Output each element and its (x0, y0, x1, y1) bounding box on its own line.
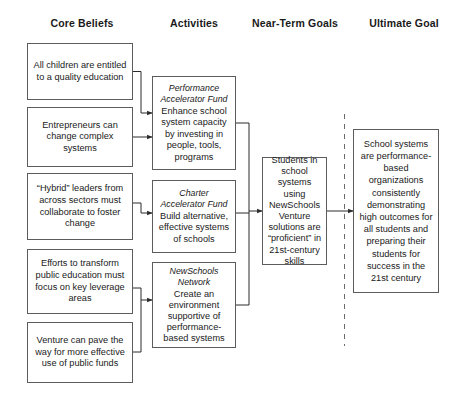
connectors-activities-to-goals (236, 123, 262, 305)
near-term-goal-node-1-text: Students in school systems using NewScho… (267, 155, 322, 267)
activity-node-3-title: NewSchools Network (157, 266, 231, 288)
activity-node-1: Performance Accelerator Fund Enhance sch… (152, 76, 236, 170)
core-belief-node-2: Entrepreneurs can change complex systems (27, 107, 133, 167)
column-header-near-term-goals: Near-Term Goals (243, 17, 347, 29)
connector-belief-5-to-activity-3 (133, 300, 141, 352)
core-belief-node-3: “Hybrid” leaders from across sectors mus… (27, 173, 133, 240)
activity-node-1-title: Performance Accelerator Fund (157, 83, 231, 105)
column-header-activities: Activities (150, 17, 238, 29)
connector-activity-1-to-bus (236, 123, 249, 211)
activity-node-2-title: Charter Accelerator Fund (157, 188, 231, 210)
activity-node-3-text: Create an environment supportive of perf… (157, 289, 231, 345)
core-belief-node-1-text: All children are entitled to a quality e… (32, 60, 128, 83)
connector-activity-3-to-bus (236, 211, 249, 305)
core-belief-node-5-text: Venture can pave the way for more effect… (32, 335, 128, 370)
core-belief-node-1: All children are entitled to a quality e… (27, 43, 133, 100)
core-belief-node-4-text: Efforts to transform public education mu… (32, 258, 128, 304)
ultimate-goal-node-1: School systems are performance-based org… (353, 129, 439, 293)
column-header-ultimate-goal: Ultimate Goal (355, 17, 453, 29)
column-header-core-beliefs: Core Beliefs (23, 17, 141, 29)
core-belief-node-4: Efforts to transform public education mu… (27, 249, 133, 314)
theory-of-change-diagram: Core Beliefs Activities Near-Term Goals … (0, 0, 464, 415)
connectors-beliefs-to-activities (133, 72, 152, 353)
connector-belief-1-to-activity-1 (133, 72, 152, 114)
activity-node-3: NewSchools Network Create an environment… (152, 262, 236, 348)
ultimate-goal-node-1-text: School systems are performance-based org… (358, 138, 434, 284)
activity-node-1-text: Enhance school system capacity by invest… (157, 106, 231, 164)
near-term-goal-node-1: Students in school systems using NewScho… (262, 157, 327, 265)
core-belief-node-3-text: “Hybrid” leaders from across sectors mus… (32, 183, 128, 229)
connector-belief-4-to-activity-3 (133, 288, 152, 300)
activity-node-2-text: Build alternative, effective systems of … (157, 211, 231, 246)
connector-belief-3-to-activity-2 (133, 203, 152, 213)
activity-node-2: Charter Accelerator Fund Build alternati… (152, 180, 236, 253)
core-belief-node-2-text: Entrepreneurs can change complex systems (32, 120, 128, 155)
core-belief-node-5: Venture can pave the way for more effect… (27, 322, 133, 383)
